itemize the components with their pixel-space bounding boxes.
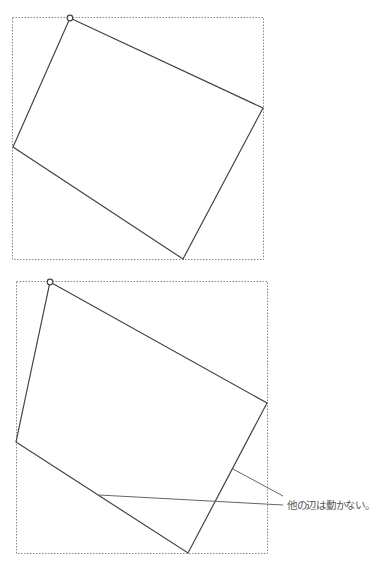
leader-line-bottom-edge (99, 495, 283, 505)
circle-handle-icon[interactable] (67, 15, 73, 21)
leader-line-right-edge (233, 469, 283, 496)
rectangle-shape-after[interactable] (16, 282, 267, 553)
bounding-box-before (13, 18, 264, 260)
figure-before (13, 15, 264, 259)
annotation-label: 他の辺は動かない。 (287, 497, 374, 512)
diagram-canvas (0, 0, 391, 566)
figure-after (16, 279, 283, 553)
rectangle-shape-before[interactable] (13, 18, 263, 259)
circle-handle-icon[interactable] (47, 279, 53, 285)
bounding-box-after (17, 282, 268, 554)
